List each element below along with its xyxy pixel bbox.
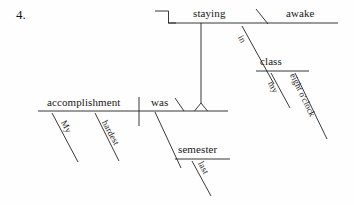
word-awake: awake (286, 8, 315, 19)
gerund-complement-divider (256, 9, 268, 24)
sentence-diagram-canvas: 4. staying awake class accomplishment wa… (0, 0, 354, 205)
subject-complement-divider (175, 98, 184, 111)
word-semester: semester (178, 144, 217, 155)
gerund-step-line (155, 11, 176, 23)
word-was: was (151, 97, 168, 108)
word-class: class (260, 56, 282, 67)
item-number: 4. (16, 8, 26, 21)
adverbial-semester-slant (155, 112, 181, 168)
gerund-pedestal-triangle (195, 103, 208, 111)
word-staying: staying (193, 8, 225, 19)
word-accomplishment: accomplishment (47, 97, 121, 108)
